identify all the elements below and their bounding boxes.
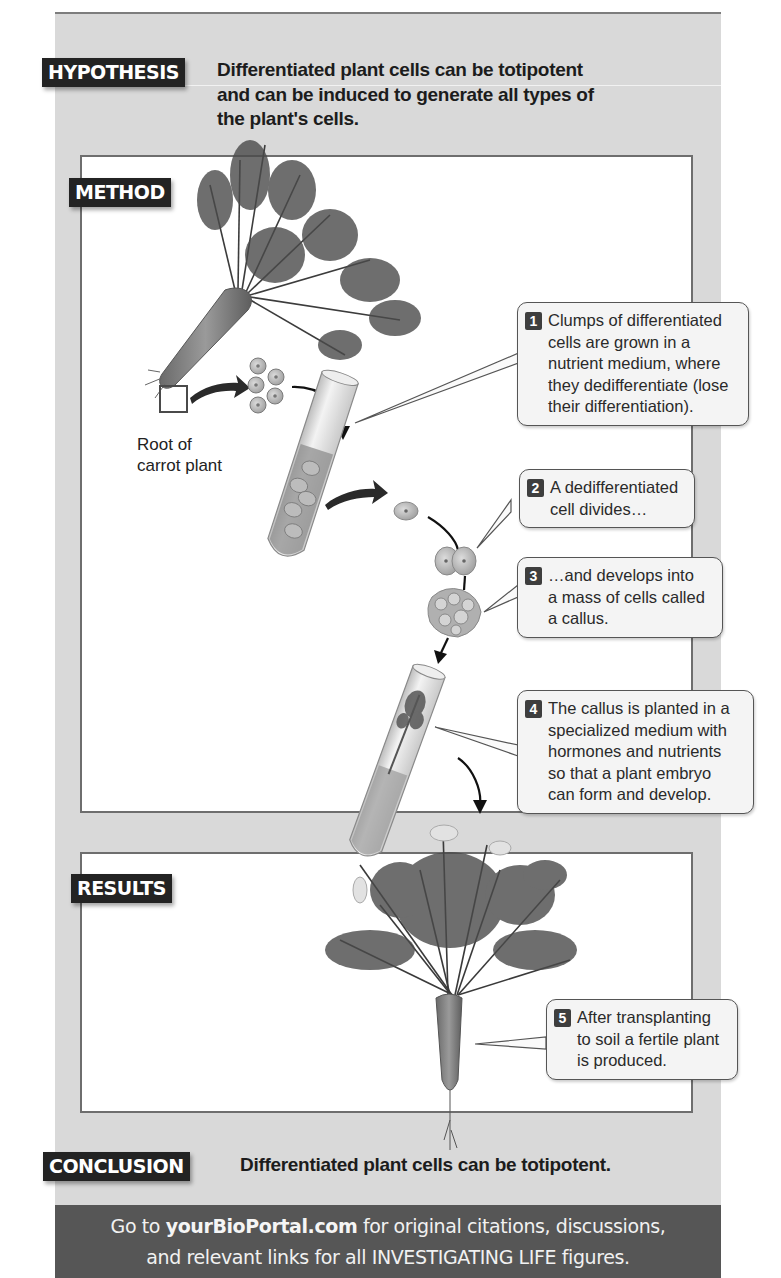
callout-line: specialized medium with	[548, 720, 745, 742]
callus-icon	[428, 589, 481, 637]
step-number-badge: 5	[554, 1009, 571, 1027]
step-number-badge: 4	[525, 700, 542, 718]
method-tag: METHOD	[69, 178, 171, 207]
results-tag: RESULTS	[71, 874, 172, 903]
callout-line: their differentiation).	[548, 396, 740, 418]
footer-line-2: and relevant links for all INVESTIGATING…	[55, 1242, 721, 1273]
conclusion-tag: CONCLUSION	[43, 1152, 190, 1181]
callout-line: Clumps of differentiated	[548, 310, 740, 332]
cell-cluster-icon	[248, 358, 284, 413]
step-5-callout: 5 After transplanting to soil a fertile …	[546, 999, 738, 1080]
mature-carrot-plant-icon	[325, 825, 577, 1150]
step-number-badge: 3	[525, 567, 542, 585]
callout-line: is produced.	[577, 1050, 729, 1072]
footer-banner: Go to yourBioPortal.com for original cit…	[55, 1205, 721, 1278]
callout-line: cells are grown in a	[548, 332, 740, 354]
callout-line: a callus.	[548, 608, 714, 630]
step-2-callout: 2 A dedifferentiated cell divides…	[519, 469, 695, 528]
callout-line: a mass of cells called	[548, 587, 714, 609]
step-4-callout: 4 The callus is planted in a specialized…	[517, 690, 754, 814]
arrow-icon	[190, 375, 250, 404]
callout-line: A dedifferentiated	[550, 477, 686, 499]
callout-line: so that a plant embryo	[548, 763, 745, 785]
root-label: Root of carrot plant	[137, 434, 222, 476]
footer-line-1: Go to yourBioPortal.com for original cit…	[55, 1211, 721, 1242]
callout-line: hormones and nutrients	[548, 741, 745, 763]
callout-line: to soil a fertile plant	[577, 1029, 729, 1051]
arrow-icon	[325, 480, 388, 510]
step-number-badge: 2	[527, 479, 544, 497]
step-3-callout: 3 …and develops into a mass of cells cal…	[517, 557, 723, 638]
step-1-callout: 1 Clumps of differentiated cells are gro…	[517, 302, 749, 426]
root-sample-box	[160, 386, 187, 412]
callout-line: nutrient medium, where	[548, 353, 740, 375]
callout-line: …and develops into	[548, 565, 714, 587]
bioportal-link[interactable]: yourBioPortal.com	[166, 1215, 358, 1237]
callout-line: cell divides…	[550, 499, 686, 521]
carrot-plant-icon	[145, 140, 421, 398]
dividing-cell-icon	[435, 547, 476, 575]
step-number-badge: 1	[525, 312, 542, 330]
callout-line: can form and develop.	[548, 784, 745, 806]
footer-suffix: for original citations, discussions,	[357, 1215, 665, 1237]
conclusion-text: Differentiated plant cells can be totipo…	[240, 1153, 611, 1178]
root-label-line: Root of	[137, 434, 222, 455]
callout-line: The callus is planted in a	[548, 698, 745, 720]
root-label-line: carrot plant	[137, 455, 222, 476]
footer-prefix: Go to	[111, 1215, 166, 1237]
callout-line: After transplanting	[577, 1007, 729, 1029]
callout-line: they dedifferentiate (lose	[548, 375, 740, 397]
